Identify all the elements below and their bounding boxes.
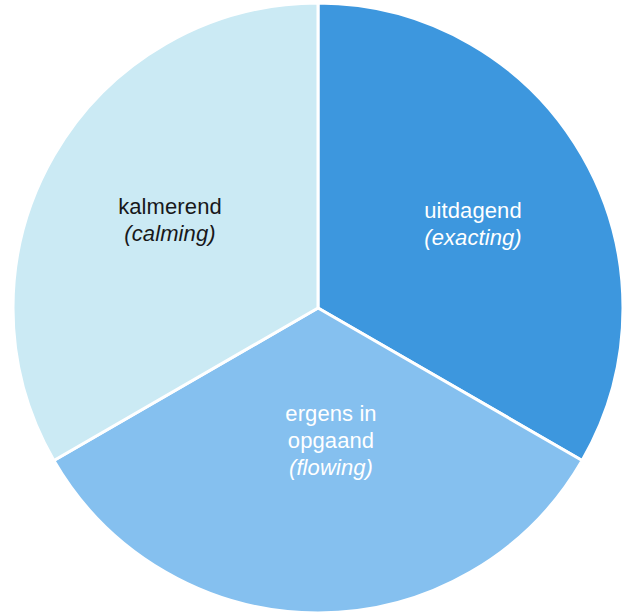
pie-chart: kalmerend (calming) uitdagend (exacting)… — [0, 0, 644, 616]
pie-chart-canvas — [0, 0, 644, 616]
